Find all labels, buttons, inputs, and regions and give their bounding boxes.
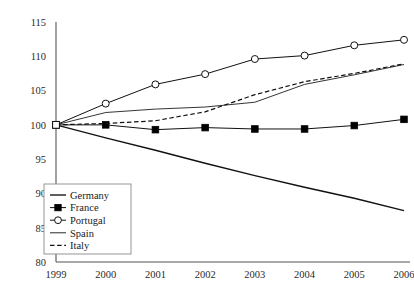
data-point-marker <box>401 36 408 43</box>
data-point-marker <box>202 71 209 78</box>
x-tick-label-2003: 2003 <box>244 269 265 280</box>
x-tick-label-2002: 2002 <box>195 269 216 280</box>
legend-label-spain: Spain <box>70 228 95 239</box>
data-point-marker <box>102 122 109 129</box>
data-point-marker <box>401 116 408 123</box>
y-tick-label-95: 95 <box>36 154 47 165</box>
x-tick-label-2000: 2000 <box>95 269 116 280</box>
series-france <box>53 116 408 133</box>
data-point-marker <box>251 56 258 63</box>
chart-legend: GermanyFrancePortugalSpainItaly <box>44 184 131 254</box>
series-italy <box>56 64 404 125</box>
legend-label-italy: Italy <box>70 240 90 251</box>
line-chart: 8085909510010511011519992000200120022003… <box>0 0 414 292</box>
x-tick-label-2005: 2005 <box>344 269 365 280</box>
data-point-marker <box>252 126 259 133</box>
chart-canvas: 8085909510010511011519992000200120022003… <box>0 0 414 292</box>
data-point-marker <box>152 81 159 88</box>
y-tick-label-100: 100 <box>30 120 46 131</box>
data-point-marker <box>152 126 159 133</box>
data-point-marker <box>301 126 308 133</box>
x-tick-label-2004: 2004 <box>294 269 316 280</box>
y-tick-label-105: 105 <box>30 85 46 96</box>
y-tick-label-110: 110 <box>31 51 46 62</box>
data-point-marker <box>102 100 109 107</box>
x-tick-label-1999: 1999 <box>46 269 67 280</box>
data-point-marker <box>351 42 358 49</box>
data-point-marker <box>301 52 308 59</box>
y-tick-label-80: 80 <box>36 257 47 268</box>
x-tick-label-2006: 2006 <box>394 269 414 280</box>
legend-label-france: France <box>70 202 99 213</box>
series-path-italy <box>56 64 404 125</box>
legend-label-portugal: Portugal <box>70 215 106 226</box>
data-point-marker <box>351 122 358 129</box>
y-tick-label-115: 115 <box>31 17 46 28</box>
legend-marker-filled-square <box>55 204 61 210</box>
legend-marker-open-circle <box>55 217 62 224</box>
origin-marker <box>53 121 60 128</box>
data-point-marker <box>202 124 209 131</box>
series-portugal <box>53 36 408 128</box>
x-tick-label-2001: 2001 <box>145 269 166 280</box>
legend-label-germany: Germany <box>70 190 110 201</box>
